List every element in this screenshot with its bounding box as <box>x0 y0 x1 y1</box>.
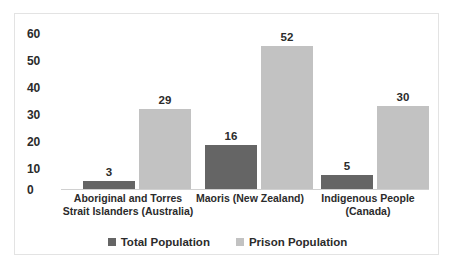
bar-total-maoris[interactable] <box>205 145 257 189</box>
y-axis-tick-20: 20 <box>27 135 61 149</box>
bar-value-total-indigenous: 5 <box>317 160 377 172</box>
y-axis-tick-40: 40 <box>27 81 61 95</box>
bar-value-total-aboriginal: 3 <box>79 166 139 178</box>
bar-group-maoris: 16 52 <box>191 24 309 189</box>
bar-prison-aboriginal[interactable] <box>139 109 191 189</box>
y-axis-tick-50: 50 <box>27 54 61 68</box>
y-axis-tick-10: 10 <box>27 162 61 176</box>
bar-total-indigenous[interactable] <box>321 175 373 189</box>
category-label-aboriginal-line2: Strait Islanders (Australia) <box>61 205 195 218</box>
x-axis-category-labels: Aboriginal and Torres Strait Islanders (… <box>61 192 429 232</box>
x-axis-baseline <box>61 189 429 190</box>
category-label-maoris-line1: Maoris (New Zealand) <box>185 192 315 205</box>
legend-swatch-prison-population <box>236 238 244 246</box>
chart-legend: Total Population Prison Population <box>15 236 440 248</box>
bar-group-aboriginal: 3 29 <box>69 24 187 189</box>
category-label-aboriginal-line1: Aboriginal and Torres <box>61 192 195 205</box>
legend-swatch-total-population <box>108 238 116 246</box>
bar-total-aboriginal[interactable] <box>83 181 135 189</box>
y-axis-tick-0: 0 <box>27 183 61 197</box>
bar-value-total-maoris: 16 <box>201 130 261 142</box>
category-label-indigenous: Indigenous People (Canada) <box>306 192 430 218</box>
y-axis-tick-30: 30 <box>27 108 61 122</box>
legend-label-total-population: Total Population <box>121 236 210 248</box>
bars-layer: 3 29 16 52 5 30 <box>61 24 429 189</box>
category-label-indigenous-line1: Indigenous People <box>306 192 430 205</box>
legend-item-prison-population[interactable]: Prison Population <box>236 236 347 248</box>
legend-label-prison-population: Prison Population <box>249 236 347 248</box>
bar-group-indigenous: 5 30 <box>307 24 425 189</box>
legend-item-total-population[interactable]: Total Population <box>108 236 210 248</box>
category-label-indigenous-line2: (Canada) <box>306 205 430 218</box>
category-label-maoris: Maoris (New Zealand) <box>185 192 315 205</box>
bar-prison-indigenous[interactable] <box>377 106 429 189</box>
bar-value-prison-indigenous: 30 <box>373 91 433 103</box>
y-axis-tick-60: 60 <box>27 27 61 41</box>
chart-frame: 60 50 40 30 20 10 0 3 29 16 52 <box>14 13 439 255</box>
bar-prison-maoris[interactable] <box>261 46 313 189</box>
bar-value-prison-aboriginal: 29 <box>135 94 195 106</box>
category-label-aboriginal: Aboriginal and Torres Strait Islanders (… <box>61 192 195 218</box>
plot-area: 60 50 40 30 20 10 0 3 29 16 52 <box>15 14 440 256</box>
